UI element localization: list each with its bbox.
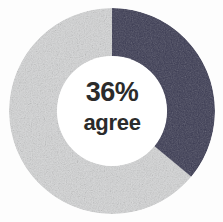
donut-center-label: 36% agree [52, 79, 172, 134]
donut-chart: 36% agree [0, 0, 223, 222]
center-value: 36% [52, 79, 172, 106]
center-caption: agree [52, 112, 172, 134]
